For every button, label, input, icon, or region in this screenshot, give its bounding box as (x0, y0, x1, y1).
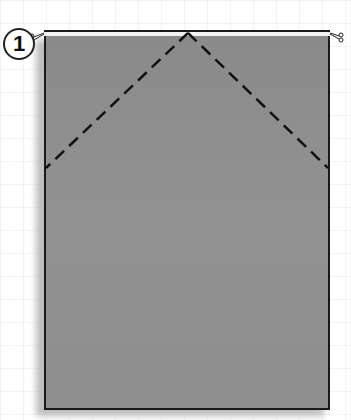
fold-line-left (46, 33, 188, 168)
cut-mark-right-icon (330, 33, 343, 42)
fold-line-right (188, 33, 328, 168)
fold-lines (0, 0, 351, 420)
origami-diagram: 1 (0, 0, 351, 420)
step-number: 1 (13, 33, 25, 55)
step-number-badge: 1 (3, 28, 35, 60)
